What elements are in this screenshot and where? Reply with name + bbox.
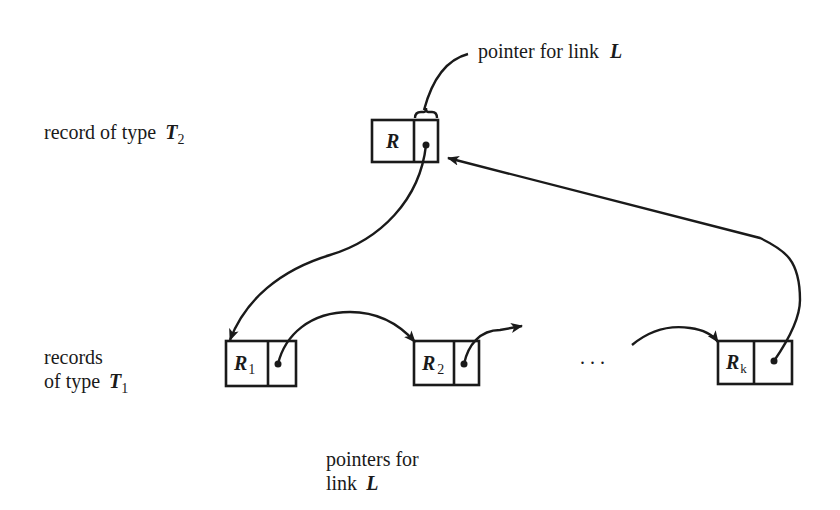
network-link-diagram: pointer for link L record of type T2 R r… (0, 0, 840, 510)
svg-text:pointer for link L: pointer for link L (478, 40, 622, 63)
bottom-annotation-line1: pointers for (326, 448, 419, 471)
member-record-rk: Rk (718, 341, 792, 384)
brace-icon (415, 108, 437, 118)
svg-text:R1: R1 (233, 352, 255, 377)
ellipsis: . . . (580, 346, 605, 368)
pointer-annotation-var: L (609, 40, 622, 62)
r2-to-next-arrow (464, 326, 522, 364)
owner-record-name: R (385, 130, 399, 152)
r1-to-r2-arrow (278, 312, 415, 364)
owner-record: R (372, 120, 438, 162)
member-type-label-line2: of type T1 (44, 370, 128, 396)
prev-to-rk-arrow (632, 327, 718, 345)
member-record-r1: R1 (226, 341, 296, 386)
annotation-leader-line (424, 54, 468, 110)
pointer-annotation-text: pointer for link (478, 40, 599, 63)
member-type-label-line1: records (44, 346, 103, 368)
bottom-annotation-line2: link L (326, 472, 378, 494)
pointer-annotation: pointer for link L (415, 40, 622, 118)
owner-type-label: record of type T2 (44, 121, 184, 147)
svg-text:Rk: Rk (725, 351, 747, 376)
svg-text:R2: R2 (421, 352, 444, 377)
owner-to-first-arrow (230, 145, 426, 340)
